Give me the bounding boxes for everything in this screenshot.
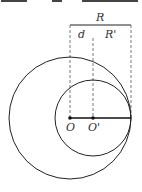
label-R-prime: R' [104, 28, 116, 41]
circle-diagram: R d R' O O' [0, 0, 142, 192]
label-d: d [78, 28, 85, 41]
clipped-caption-text [1, 0, 138, 2]
label-O-prime: O' [88, 121, 100, 134]
center-point-O [68, 116, 72, 120]
label-R: R [95, 11, 104, 24]
label-O: O [66, 121, 75, 134]
center-point-O-prime [91, 116, 95, 120]
